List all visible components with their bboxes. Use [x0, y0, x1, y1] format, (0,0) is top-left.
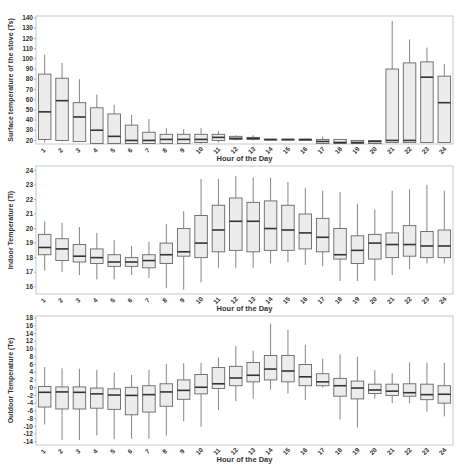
- x-tick-label: 15: [281, 145, 291, 155]
- x-tick-label: 1: [39, 296, 47, 304]
- x-tick-label: 6: [126, 296, 134, 304]
- x-tick-label: 7: [143, 296, 151, 304]
- plot-frame: [36, 316, 453, 445]
- x-tick-label: 2: [57, 146, 65, 154]
- plot-frame: [36, 166, 453, 294]
- x-tick-label: 20: [368, 145, 378, 155]
- x-tick-label: 17: [316, 446, 326, 456]
- y-tick-label: 0: [29, 384, 33, 391]
- box-hour-18: [334, 139, 347, 143]
- x-tick-label: 8: [161, 447, 169, 455]
- y-tick-label: -10: [24, 423, 34, 430]
- x-tick-label: 24: [438, 446, 448, 456]
- x-tick-label: 1: [39, 447, 47, 455]
- y-tick-label: -14: [24, 438, 34, 445]
- x-axis-label: Hour of the Day: [217, 455, 274, 464]
- x-tick-label: 4: [91, 146, 99, 154]
- y-tick-label: 10: [26, 345, 34, 352]
- y-tick-label: -8: [27, 415, 33, 422]
- x-tick-label: 3: [74, 296, 82, 304]
- y-tick-label: 17: [26, 268, 34, 275]
- x-tick-label: 6: [126, 146, 134, 154]
- chart-panel-1: 2030405060708090100110120130140Surface t…: [7, 14, 453, 163]
- x-tick-label: 19: [351, 145, 361, 155]
- x-tick-label: 9: [178, 146, 186, 154]
- y-tick-label: 20: [26, 225, 34, 232]
- y-tick-label: 18: [26, 254, 34, 261]
- x-tick-label: 20: [368, 295, 378, 305]
- x-tick-label: 4: [91, 447, 99, 455]
- y-tick-label: 19: [26, 239, 34, 246]
- y-tick-label: -4: [27, 399, 33, 406]
- x-tick-label: 2: [57, 296, 65, 304]
- x-tick-label: 16: [299, 295, 309, 305]
- y-tick-label: 14: [26, 330, 34, 337]
- y-tick-label: 60: [26, 96, 34, 103]
- x-tick-label: 15: [281, 295, 291, 305]
- y-tick-label: 120: [22, 35, 33, 42]
- y-tick-label: 20: [26, 137, 34, 144]
- x-tick-label: 16: [299, 446, 309, 456]
- y-axis-label: Indoor Temperature (Ti): [7, 191, 15, 269]
- y-tick-label: 18: [26, 314, 34, 321]
- x-tick-label: 10: [194, 446, 204, 456]
- box-hour-14: [264, 139, 277, 140]
- x-tick-label: 21: [385, 446, 395, 456]
- y-tick-label: -12: [24, 430, 34, 437]
- y-tick-label: 40: [26, 116, 34, 123]
- x-tick-label: 7: [143, 447, 151, 455]
- box-hour-19: [351, 140, 364, 143]
- y-tick-label: 80: [26, 75, 34, 82]
- y-tick-label: 16: [26, 283, 34, 290]
- x-tick-label: 22: [403, 446, 413, 456]
- y-tick-label: -6: [27, 407, 33, 414]
- x-tick-label: 23: [420, 145, 430, 155]
- x-tick-label: 5: [109, 296, 117, 304]
- x-tick-label: 8: [161, 296, 169, 304]
- box-hour-23: [421, 48, 434, 143]
- y-tick-label: 2: [29, 376, 33, 383]
- x-tick-label: 18: [333, 446, 343, 456]
- box-hour-20: [369, 140, 382, 143]
- x-tick-label: 9: [178, 296, 186, 304]
- x-tick-label: 22: [403, 295, 413, 305]
- y-tick-label: 50: [26, 106, 34, 113]
- x-tick-label: 15: [281, 446, 291, 456]
- y-tick-label: 140: [22, 14, 33, 21]
- x-tick-label: 21: [385, 145, 395, 155]
- x-tick-label: 16: [299, 145, 309, 155]
- y-tick-label: 16: [26, 322, 34, 329]
- y-tick-label: 24: [26, 167, 34, 174]
- x-tick-label: 21: [385, 295, 395, 305]
- x-tick-label: 10: [194, 295, 204, 305]
- x-tick-label: 5: [109, 447, 117, 455]
- chart-panel-3: -14-12-10-8-6-4-2024681012141618Outdoor …: [7, 314, 453, 464]
- x-tick-label: 23: [420, 295, 430, 305]
- x-tick-label: 18: [333, 145, 343, 155]
- y-tick-label: 130: [22, 24, 33, 31]
- y-tick-label: 100: [22, 55, 33, 62]
- x-tick-label: 20: [368, 446, 378, 456]
- x-tick-label: 19: [351, 295, 361, 305]
- x-tick-label: 24: [438, 145, 448, 155]
- box-hour-12: [230, 135, 243, 140]
- x-tick-label: 5: [109, 146, 117, 154]
- x-tick-label: 24: [438, 295, 448, 305]
- chart-panel-2: 161718192021222324Indoor Temperature (Ti…: [7, 166, 453, 313]
- y-tick-label: 8: [29, 353, 33, 360]
- y-tick-label: 12: [26, 337, 34, 344]
- x-tick-label: 23: [420, 446, 430, 456]
- box-hour-16: [299, 139, 312, 140]
- x-tick-label: 19: [351, 446, 361, 456]
- y-tick-label: 4: [29, 368, 33, 375]
- y-tick-label: 23: [26, 181, 34, 188]
- x-tick-label: 4: [91, 296, 99, 304]
- x-tick-label: 17: [316, 295, 326, 305]
- x-tick-label: 10: [194, 145, 204, 155]
- x-tick-label: 6: [126, 447, 134, 455]
- x-axis-label: Hour of the Day: [217, 304, 274, 313]
- x-tick-label: 17: [316, 145, 326, 155]
- x-tick-label: 3: [74, 447, 82, 455]
- y-tick-label: 21: [26, 210, 34, 217]
- y-axis-label: Outdoor Temperature (Te): [7, 338, 15, 424]
